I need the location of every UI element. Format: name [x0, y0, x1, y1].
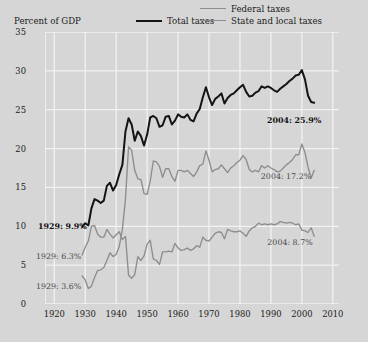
legend-label-federal: Federal taxes — [231, 4, 290, 14]
x-tick-1980: 1980 — [223, 309, 257, 319]
y-tick-30: 30 — [2, 66, 26, 76]
legend-swatch-total-icon — [136, 20, 162, 22]
x-tick-1940: 1940 — [99, 309, 133, 319]
y-axis-label: Percent of GDP — [14, 16, 81, 26]
x-tick-2000: 2000 — [285, 309, 319, 319]
y-tick-20: 20 — [2, 144, 26, 154]
annotation-1929-total: 1929: 9.9% — [38, 222, 87, 231]
x-tick-1990: 1990 — [254, 309, 288, 319]
x-tick-1950: 1950 — [130, 309, 164, 319]
x-tick-2010: 2010 — [316, 309, 350, 319]
chart-svg — [45, 32, 339, 304]
legend-swatch-state-local-icon — [200, 20, 226, 21]
annotation-1929-federal: 1929: 3.6% — [36, 282, 81, 291]
x-tick-1960: 1960 — [161, 309, 195, 319]
x-tick-1970: 1970 — [192, 309, 226, 319]
gridlines — [45, 32, 339, 304]
y-tick-5: 5 — [2, 260, 26, 270]
annotation-2004-federal: 2004: 17.2% — [261, 172, 311, 181]
x-tick-1930: 1930 — [68, 309, 102, 319]
y-tick-0: 0 — [2, 299, 26, 309]
legend-label-state-local: State and local taxes — [231, 16, 322, 26]
x-tick-1920: 1920 — [37, 309, 71, 319]
annotation-1929-state-local: 1929: 6.3% — [36, 252, 81, 261]
chart-figure: Federal taxes Total taxes State and loca… — [0, 0, 368, 342]
y-tick-25: 25 — [2, 105, 26, 115]
legend-item-federal: Federal taxes — [200, 4, 290, 14]
series-line-federal-taxes — [82, 144, 314, 289]
y-tick-10: 10 — [2, 221, 26, 231]
annotation-2004-state-local: 2004: 8.7% — [267, 238, 312, 247]
legend-item-state-local: State and local taxes — [200, 16, 322, 26]
y-tick-15: 15 — [2, 182, 26, 192]
plot-area — [45, 32, 339, 304]
legend-swatch-federal-icon — [200, 8, 226, 9]
series-line-state-and-local-taxes — [82, 222, 314, 279]
annotation-2004-total: 2004: 25.9% — [267, 116, 321, 125]
y-tick-35: 35 — [2, 27, 26, 37]
